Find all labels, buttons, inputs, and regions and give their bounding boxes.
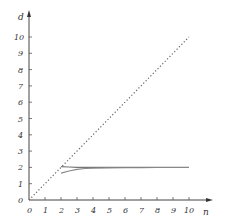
x-tick-label: 0 [27,206,32,215]
series-line [29,37,189,200]
x-tick-label: 2 [58,206,64,215]
x-tick-label: 3 [75,206,80,215]
x-tick-label: 5 [107,206,112,215]
axes [27,10,213,202]
y-tick-label: 5 [18,115,23,124]
x-tick-label: 8 [155,206,160,215]
y-tick-label: 8 [18,66,23,75]
y-axis-label: d [18,12,24,22]
x-tick-label: 10 [184,206,194,215]
y-tick-label: 1 [18,180,23,189]
y-tick-label: 4 [17,131,23,140]
chart: 012345678910 012345678910 d n [0,0,227,224]
y-tick-label: 7 [18,82,24,91]
y-axis-arrow-icon [27,10,31,17]
y-tick-label: 0 [18,196,23,205]
series-group [29,37,189,200]
x-tick-label: 4 [90,206,96,215]
x-tick-label: 9 [171,206,176,215]
x-tick-label: 1 [43,206,48,215]
y-tick-label: 2 [17,163,23,172]
series-line [61,168,189,174]
x-axis-label: n [203,207,209,217]
y-tick-label: 10 [14,33,24,42]
x-tick-label: 7 [139,206,145,215]
x-axis-arrow-icon [206,198,213,202]
y-tick-label: 6 [18,98,23,107]
y-tick-label: 9 [18,49,23,58]
x-tick-label: 6 [123,206,128,215]
y-tick-label: 3 [18,147,23,156]
